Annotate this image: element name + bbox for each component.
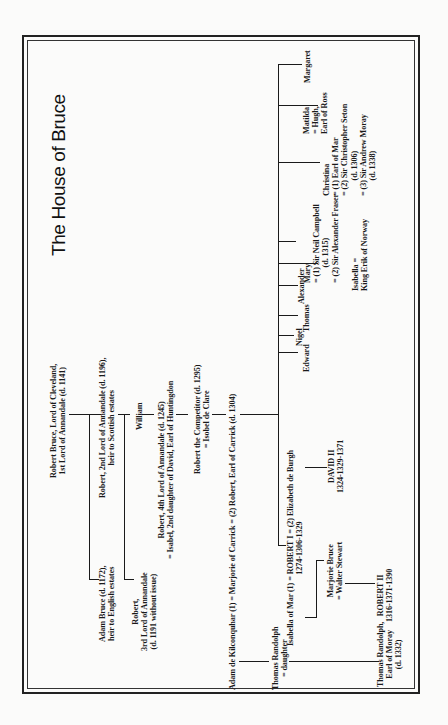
connector: [278, 241, 296, 242]
person-robert-i: Isabella of Mar (1) = ROBERT I = (2) Eli…: [286, 450, 304, 646]
person-margaret: Margaret: [303, 50, 312, 83]
person-matilda: Matilda = Hugh, Earl of Ross: [302, 92, 330, 134]
person-edward: Edward: [302, 344, 311, 372]
person-robert-ii: ROBERT II 1316-1371-1390: [376, 569, 394, 622]
person-christina: Christina = (1) Earl of Mar = (2) Sir Ch…: [322, 104, 377, 196]
person-robert-bruce-1st-lord: Robert Bruce, Lord of Cleveland, 1st Lor…: [49, 364, 67, 478]
person-robert-3rd-lord: Robert, 3rd Lord of Annandale (d. 1191 w…: [131, 572, 159, 651]
person-marjorie-bruce: Marjorie Bruce = Walter Stewart: [326, 542, 344, 600]
connector: [142, 414, 154, 415]
person-robert-2nd-lord: Robert, 2nd Lord of Annandale (d. 1196),…: [98, 358, 116, 498]
connector: [89, 414, 90, 580]
chart-title: The House of Bruce: [48, 94, 70, 256]
connector: [278, 315, 298, 316]
connector: [278, 545, 286, 546]
connector: [345, 583, 375, 584]
connector: [278, 285, 298, 286]
spine-connector: [240, 414, 279, 415]
connector: [176, 414, 188, 415]
connector: [212, 414, 226, 415]
person-robert-4th-lord: Robert, 4th Lord of Annandale (d. 1245) …: [157, 381, 175, 559]
person-robert-the-competitor: Robert the Competitor (d. 1295) = Isobel…: [193, 365, 211, 474]
connector: [239, 661, 269, 662]
connector: [316, 560, 324, 561]
connector: [69, 414, 91, 415]
person-william: William: [135, 403, 144, 430]
person-isabella: Isabella = King Erik of Norway: [351, 219, 369, 291]
person-thomas-bruce: Thomas: [302, 304, 311, 332]
connector: [289, 661, 379, 662]
person-adam-bruce: Adam Bruce (d. 1172), heir to English es…: [98, 566, 116, 642]
connector: [305, 467, 327, 468]
connector: [316, 560, 317, 618]
connector: [278, 64, 302, 65]
connector: [278, 162, 320, 163]
connector: [124, 414, 130, 415]
sibling-bar: [278, 64, 279, 546]
person-david-ii: DAVID II 1324-1329-1371: [327, 440, 345, 493]
connector: [124, 414, 125, 580]
person-thomas-randolph-earl-of-moray: Thomas Randolph, Earl of Moray (d. 1332): [376, 622, 404, 687]
connector: [278, 352, 298, 353]
connector: [278, 335, 294, 336]
marriage-marjorie-of-carrick: Adam de Kilconquhar (1) = Marjorie of Ca…: [228, 394, 237, 690]
person-mary: Mary = (1) Sir Neil Campbell (d. 1315) =…: [303, 194, 340, 283]
